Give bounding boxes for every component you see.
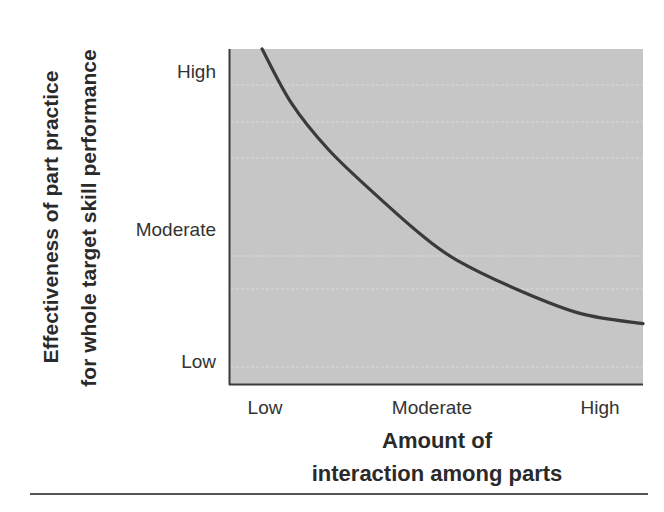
y-tick-moderate: Moderate bbox=[106, 220, 216, 239]
y-tick-high: High bbox=[106, 62, 216, 81]
y-tick-low: Low bbox=[106, 352, 216, 371]
x-axis-title-line1: Amount of bbox=[382, 430, 492, 452]
y-axis-title-line1: Effectiveness of part practice bbox=[40, 71, 61, 364]
plot-area bbox=[229, 49, 643, 384]
chart-plot bbox=[0, 0, 664, 512]
y-axis-title-line2: for whole target skill performance bbox=[78, 49, 99, 386]
x-tick-low: Low bbox=[248, 398, 283, 417]
x-tick-high: High bbox=[580, 398, 619, 417]
x-axis-title-line2: interaction among parts bbox=[312, 463, 563, 485]
bottom-rule-divider bbox=[30, 493, 648, 495]
x-tick-moderate: Moderate bbox=[392, 398, 472, 417]
